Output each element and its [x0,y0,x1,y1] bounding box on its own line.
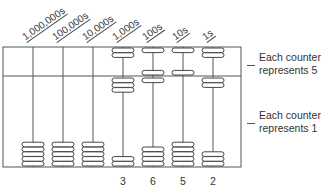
upper-label-line-2: represents 5 [259,64,321,77]
upper-bead-active [172,70,194,75]
upper-bead [202,48,224,53]
lower-bead-active [112,83,134,88]
lower-bead [112,161,134,166]
lower-bead-active [142,78,164,83]
column-digit: 5 [173,175,193,187]
abacus-diagram: 1,000,000s100,000s10,000s1,000s100s10s1s… [0,0,326,192]
lower-label-line-1: Each counter [259,109,321,122]
upper-label-line-1: Each counter [259,51,321,64]
upper-bead [112,53,134,58]
lower-bead [82,161,104,166]
lower-bead-active [202,78,224,83]
lower-bead [202,157,224,162]
lower-bead [52,147,74,152]
lower-bead [172,152,194,157]
lower-bead [202,152,224,157]
upper-bead [172,48,194,53]
lower-bead [52,161,74,166]
lower-bead [112,157,134,162]
lower-bead [82,157,104,162]
upper-bead [142,48,164,53]
lower-bead [172,142,194,147]
lower-bead [52,152,74,157]
lower-bead [142,157,164,162]
upper-section-label: Each counter represents 5 [259,51,321,77]
lower-bead-active [202,83,224,88]
lower-bead [82,147,104,152]
upper-bead [202,53,224,58]
column-digit: 6 [143,175,163,187]
lower-bead [52,157,74,162]
lower-bead [82,152,104,157]
lower-bead-active [112,78,134,83]
lower-bead [22,157,44,162]
lower-section-pointer [247,123,255,124]
column-digit: 2 [203,175,223,187]
lower-bead [172,161,194,166]
lower-section-label: Each counter represents 1 [259,109,321,135]
lower-bead-active [112,88,134,93]
lower-bead [52,142,74,147]
lower-bead [202,161,224,166]
lower-label-line-2: represents 1 [259,122,321,135]
lower-bead [22,142,44,147]
lower-bead [172,147,194,152]
lower-bead [22,161,44,166]
lower-bead [82,142,104,147]
upper-bead-active [142,70,164,75]
lower-bead [22,147,44,152]
lower-bead [142,147,164,152]
upper-bead [112,48,134,53]
lower-bead [142,152,164,157]
column-digit: 3 [113,175,133,187]
lower-bead [172,157,194,162]
upper-section-pointer [247,65,255,66]
lower-bead [22,152,44,157]
lower-bead [142,161,164,166]
